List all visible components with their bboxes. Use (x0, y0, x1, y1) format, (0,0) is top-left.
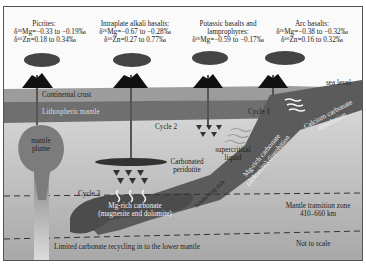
supercritical-line1: supercritical (210, 146, 256, 154)
cycle-1-label: Cycle 1 (248, 108, 270, 116)
picrites-zn: δ⁶⁶Zn=0.18 to 0.34‰ (14, 36, 74, 44)
mantle-plume-label: mantle plume (28, 137, 54, 153)
carbonate-recycling-diagram: Picrites: δ²⁶Mg=−0.33 to −0.19‰ δ⁶⁶Zn=0.… (0, 0, 366, 267)
picrites-mg: δ²⁶Mg=−0.33 to −0.19‰ (14, 28, 74, 36)
cycle-3-label: Cycle 3 (78, 190, 100, 198)
picrites-annotation: Picrites: δ²⁶Mg=−0.33 to −0.19‰ δ⁶⁶Zn=0.… (14, 20, 74, 44)
lithospheric-mantle-label: Lithospheric mantle (42, 108, 100, 116)
mg-carbonate-line1: Mg-rich carbonate (95, 202, 175, 210)
carbonated-peridotite-label: Carbonated peridotite (165, 158, 209, 174)
arc-title: Arc basalts: (272, 20, 352, 28)
limited-recycling-label: Limited carbonate recycling in to the lo… (54, 243, 200, 251)
mg-carbonate-label: Mg-rich carbonate (magnesite and dolomit… (95, 202, 175, 218)
carbonated-line1: Carbonated (165, 158, 209, 166)
mantle-transition-label: Mantle transition zone 410–660 km (278, 202, 358, 218)
intraplate-zn: δ⁶⁶Zn=0.27 to 0.77‰ (95, 36, 175, 44)
arc-annotation: Arc basalts: δ²⁶Mg=−0.38 to −0.32‰ δ⁶⁶Zn… (272, 20, 352, 44)
potassic-title: Potassic basalts and (188, 20, 268, 28)
potassic-title-2: lamprophyres: (188, 28, 268, 36)
arc-zn: δ⁶⁶Zn=0.16 to 0.32‰ (272, 36, 352, 44)
potassic-mg: δ²⁶Mg=−0.59 to −0.17‰ (188, 36, 268, 44)
transition-line2: 410–660 km (278, 210, 358, 218)
picrites-title: Picrites: (14, 20, 74, 28)
continental-crust-label: Continental crust (42, 91, 91, 99)
arc-mg: δ²⁶Mg=−0.38 to −0.32‰ (272, 28, 352, 36)
supercritical-liquid-label: supercritical liquid (210, 146, 256, 162)
mg-carbonate-line2: (magnesite and dolomite) (95, 210, 175, 218)
carbonated-line2: peridotite (165, 166, 209, 174)
mantle-plume-line1: mantle (28, 137, 54, 145)
sea-level-label: sea level (326, 79, 351, 87)
intraplate-annotation: Intraplate alkali basalts: δ²⁶Mg=−0.67 t… (95, 20, 175, 44)
potassic-annotation: Potassic basalts and lamprophyres: δ²⁶Mg… (188, 20, 268, 44)
intraplate-mg: δ²⁶Mg=−0.67 to −0.28‰ (95, 28, 175, 36)
not-to-scale-label: Not to scale (296, 240, 330, 248)
cycle-2-label: Cycle 2 (155, 123, 177, 131)
supercritical-line2: liquid (210, 154, 256, 162)
transition-line1: Mantle transition zone (278, 202, 358, 210)
intraplate-title: Intraplate alkali basalts: (95, 20, 175, 28)
mantle-plume-line2: plume (28, 145, 54, 153)
